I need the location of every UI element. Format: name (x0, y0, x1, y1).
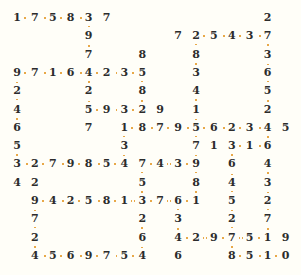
grid-cell-digit[interactable]: 5 (243, 230, 257, 246)
grid-cell-digit[interactable]: 3 (243, 120, 257, 136)
grid-cell-digit[interactable]: 7 (153, 120, 167, 136)
grid-cell-digit[interactable]: 3 (171, 156, 185, 172)
grid-cell-digit[interactable]: 9 (82, 248, 96, 264)
grid-cell-digit[interactable]: 4 (28, 248, 42, 264)
grid-cell-digit[interactable]: 7 (82, 120, 96, 136)
grid-cell-digit[interactable]: 2 (189, 230, 203, 246)
grid-cell-digit[interactable]: 3 (117, 138, 131, 154)
grid-cell-digit[interactable]: 5 (261, 83, 275, 99)
grid-cell-digit[interactable]: 8 (135, 83, 149, 99)
grid-cell-digit[interactable]: 4 (225, 175, 239, 191)
grid-cell-digit[interactable]: 6 (10, 120, 24, 136)
grid-cell-digit[interactable]: 5 (117, 248, 131, 264)
grid-cell-digit[interactable]: 6 (64, 248, 78, 264)
grid-cell-digit[interactable]: 4 (10, 175, 24, 191)
grid-cell-digit[interactable]: 7 (28, 65, 42, 81)
grid-cell-digit[interactable]: 5 (10, 138, 24, 154)
grid-cell-digit[interactable]: 1 (243, 138, 257, 154)
grid-cell-digit[interactable]: 7 (28, 211, 42, 227)
grid-cell-digit[interactable]: 8 (64, 10, 78, 26)
grid-cell-digit[interactable]: 6 (64, 65, 78, 81)
grid-cell-digit[interactable]: 8 (135, 120, 149, 136)
grid-cell-digit[interactable]: 5 (46, 10, 60, 26)
grid-cell-digit[interactable]: 2 (225, 120, 239, 136)
grid-cell-digit[interactable]: 5 (82, 193, 96, 209)
grid-cell-digit[interactable]: 6 (171, 248, 185, 264)
grid-cell-digit[interactable]: 6 (261, 65, 275, 81)
grid-cell-digit[interactable]: 9 (279, 230, 293, 246)
grid-cell-digit[interactable]: 9 (82, 28, 96, 44)
grid-cell-digit[interactable]: 3 (261, 175, 275, 191)
grid-cell-digit[interactable]: 3 (82, 10, 96, 26)
grid-cell-digit[interactable]: 5 (46, 248, 60, 264)
grid-cell-digit[interactable]: 5 (135, 65, 149, 81)
grid-cell-digit[interactable]: 6 (135, 230, 149, 246)
grid-cell-digit[interactable]: 9 (64, 156, 78, 172)
grid-cell-digit[interactable]: 4 (82, 65, 96, 81)
grid-cell-digit[interactable]: 4 (171, 230, 185, 246)
grid-cell-digit[interactable]: 7 (100, 248, 114, 264)
grid-cell-digit[interactable]: 2 (135, 102, 149, 118)
grid-cell-digit[interactable]: 9 (10, 65, 24, 81)
grid-cell-digit[interactable]: 5 (82, 102, 96, 118)
grid-cell-digit[interactable]: 3 (189, 65, 203, 81)
grid-cell-digit[interactable]: 4 (261, 120, 275, 136)
grid-cell-digit[interactable]: 8 (189, 47, 203, 63)
grid-cell-digit[interactable]: 7 (28, 10, 42, 26)
grid-cell-digit[interactable]: 2 (82, 83, 96, 99)
grid-cell-digit[interactable]: 3 (171, 211, 185, 227)
grid-cell-digit[interactable]: 2 (261, 10, 275, 26)
grid-cell-digit[interactable]: 6 (207, 120, 221, 136)
grid-cell-digit[interactable]: 9 (171, 120, 185, 136)
grid-cell-digit[interactable]: 1 (10, 10, 24, 26)
grid-cell-digit[interactable]: 4 (153, 156, 167, 172)
grid-cell-digit[interactable]: 7 (153, 193, 167, 209)
grid-cell-digit[interactable]: 8 (82, 156, 96, 172)
grid-cell-digit[interactable]: 9 (207, 230, 221, 246)
grid-cell-digit[interactable]: 5 (135, 175, 149, 191)
grid-cell-digit[interactable]: 8 (225, 248, 239, 264)
grid-cell-digit[interactable]: 2 (189, 28, 203, 44)
grid-cell-digit[interactable]: 2 (28, 156, 42, 172)
grid-cell-digit[interactable]: 4 (10, 102, 24, 118)
grid-cell-digit[interactable]: 4 (135, 248, 149, 264)
grid-cell-digit[interactable]: 7 (46, 156, 60, 172)
grid-cell-digit[interactable]: 2 (261, 102, 275, 118)
grid-cell-digit[interactable]: 8 (135, 47, 149, 63)
grid-cell-digit[interactable]: 6 (261, 138, 275, 154)
grid-cell-digit[interactable]: 1 (117, 193, 131, 209)
grid-cell-digit[interactable]: 4 (189, 83, 203, 99)
grid-cell-digit[interactable]: 1 (189, 193, 203, 209)
grid-cell-digit[interactable]: 3 (10, 156, 24, 172)
grid-cell-digit[interactable]: 3 (225, 138, 239, 154)
grid-cell-digit[interactable]: 3 (243, 28, 257, 44)
grid-cell-digit[interactable]: 5 (207, 28, 221, 44)
grid-cell-digit[interactable]: 7 (171, 28, 185, 44)
grid-cell-digit[interactable]: 7 (189, 138, 203, 154)
grid-cell-digit[interactable]: 5 (189, 120, 203, 136)
grid-cell-digit[interactable]: 7 (261, 28, 275, 44)
grid-cell-digit[interactable]: 6 (171, 193, 185, 209)
grid-cell-digit[interactable]: 9 (189, 156, 203, 172)
grid-cell-digit[interactable]: 2 (28, 175, 42, 191)
grid-cell-digit[interactable]: 7 (225, 230, 239, 246)
grid-cell-digit[interactable]: 1 (189, 102, 203, 118)
grid-cell-digit[interactable]: 5 (243, 248, 257, 264)
grid-cell-digit[interactable]: 3 (117, 102, 131, 118)
grid-cell-digit[interactable]: 4 (225, 28, 239, 44)
grid-cell-digit[interactable]: 5 (225, 193, 239, 209)
grid-cell-digit[interactable]: 1 (117, 120, 131, 136)
grid-cell-digit[interactable]: 2 (100, 65, 114, 81)
grid-cell-digit[interactable]: 2 (10, 83, 24, 99)
grid-cell-digit[interactable]: 1 (46, 65, 60, 81)
grid-cell-digit[interactable]: 1 (207, 138, 221, 154)
grid-cell-digit[interactable]: 1 (261, 230, 275, 246)
grid-cell-digit[interactable]: 7 (100, 10, 114, 26)
grid-cell-digit[interactable]: 2 (135, 211, 149, 227)
grid-cell-digit[interactable]: 3 (261, 47, 275, 63)
grid-cell-digit[interactable]: 9 (28, 193, 42, 209)
grid-cell-digit[interactable]: 7 (82, 47, 96, 63)
grid-cell-digit[interactable]: 5 (279, 120, 293, 136)
grid-cell-digit[interactable]: 4 (261, 156, 275, 172)
grid-cell-digit[interactable]: 9 (100, 102, 114, 118)
